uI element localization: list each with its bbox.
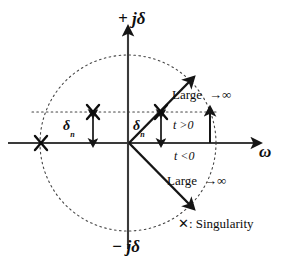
- annotation-t-negative: t <0: [174, 150, 194, 162]
- annotation-large-lower-text: Large: [167, 173, 197, 188]
- legend: ✕: Singularity: [178, 217, 254, 230]
- annotation-large-upper-text: Large: [172, 87, 202, 102]
- legend-singularity-icon: ✕: [178, 216, 189, 231]
- axis-label-imaginary-bottom: − jδ: [112, 238, 140, 255]
- annotation-delta-n-left-subscript: n: [70, 130, 74, 139]
- annotation-large-lower-arrow: →∞: [204, 173, 226, 188]
- annotation-large-upper-arrow: →∞: [209, 87, 231, 102]
- annotation-large-upper: Large→∞: [172, 88, 231, 101]
- annotation-t-positive: t >0: [173, 119, 193, 131]
- annotation-delta-n-mid: δn: [133, 119, 145, 136]
- annotation-delta-n-mid-subscript: n: [140, 130, 144, 139]
- axis-label-imaginary-top: + jδ: [118, 10, 145, 27]
- singularity-diagram: + jδ − jδ ω Large→∞ Large→∞ t >0 t <0 δn…: [0, 0, 288, 268]
- axis-label-omega: ω: [259, 143, 271, 160]
- legend-label: : Singularity: [189, 216, 254, 231]
- annotation-delta-n-left: δn: [63, 119, 75, 136]
- annotation-large-lower: Large→∞: [167, 174, 226, 187]
